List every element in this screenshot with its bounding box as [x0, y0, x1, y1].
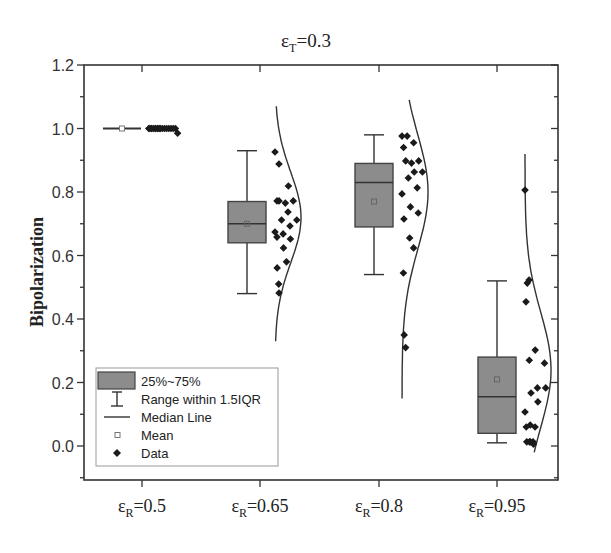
data-point	[403, 132, 411, 140]
data-point	[284, 208, 292, 216]
data-point	[400, 269, 408, 277]
y-tick-label: 1.0	[52, 121, 74, 138]
y-axis-title: Bipolarization	[27, 217, 47, 327]
data-point	[531, 346, 539, 354]
data-point	[414, 209, 422, 217]
data-point	[271, 148, 279, 156]
y-tick-label: 1.2	[52, 57, 74, 74]
data-point	[407, 203, 415, 211]
data-point	[400, 144, 408, 152]
data-point	[534, 398, 542, 406]
data-point	[400, 215, 408, 223]
data-point	[405, 174, 413, 182]
data-point	[278, 216, 286, 224]
iqr-box	[228, 202, 266, 243]
data-point	[410, 168, 418, 176]
y-tick-label: 0.6	[52, 248, 74, 265]
legend-label: Data	[141, 446, 169, 461]
data-point	[525, 356, 533, 364]
data-point	[279, 230, 287, 238]
data-point	[541, 359, 549, 367]
box-plot-chart: εT=0.3 0.00.20.40.60.81.01.2εR=0.5εR=0.6…	[0, 0, 611, 553]
box-swatch-icon	[98, 372, 135, 389]
data-point	[398, 190, 406, 198]
y-tick-label: 0.4	[52, 311, 74, 328]
data-point	[285, 182, 293, 190]
x-tick-label: εR=0.8	[355, 496, 403, 520]
data-point	[282, 199, 290, 207]
legend: 25%~75%Range within 1.5IQRMedian LineMea…	[96, 368, 278, 466]
series-group	[103, 125, 181, 137]
data-point	[289, 197, 297, 205]
data-point	[413, 184, 421, 192]
data-point	[522, 298, 530, 306]
legend-label: 25%~75%	[141, 374, 201, 389]
mean-marker	[120, 126, 125, 131]
data-point	[410, 139, 418, 147]
data-point	[415, 157, 423, 165]
distribution-curve	[276, 106, 301, 341]
legend-label: Mean	[141, 428, 174, 443]
iqr-box	[478, 357, 516, 433]
data-point	[410, 244, 418, 252]
x-tick-label: εR=0.5	[118, 496, 166, 520]
y-tick-label: 0.0	[52, 438, 74, 455]
data-point	[527, 389, 535, 397]
x-tick-label: εR=0.65	[231, 496, 288, 520]
data-point	[521, 186, 529, 194]
data-point	[273, 264, 281, 272]
legend-label: Range within 1.5IQR	[141, 392, 261, 407]
data-point	[280, 244, 288, 252]
data-point	[286, 222, 294, 230]
title-text: εT=0.3	[281, 30, 331, 55]
y-tick-label: 0.8	[52, 184, 74, 201]
data-point	[293, 216, 301, 224]
legend-label: Median Line	[141, 410, 212, 425]
data-point	[287, 235, 295, 243]
chart-title: εT=0.3	[281, 30, 331, 55]
series-group	[355, 100, 428, 399]
iqr-box	[355, 163, 393, 227]
data-point	[275, 160, 283, 168]
data-point	[534, 384, 542, 392]
data-point	[406, 234, 414, 242]
series-group	[228, 106, 301, 341]
data-point	[400, 331, 408, 339]
data-point	[275, 280, 283, 288]
y-axis-label: Bipolarization	[27, 217, 47, 327]
data-point	[542, 384, 550, 392]
series-group	[478, 154, 551, 453]
y-tick-label: 0.2	[52, 375, 74, 392]
data-point	[283, 258, 291, 266]
data-point	[419, 168, 427, 176]
data-point	[521, 408, 529, 416]
distribution-curve	[525, 154, 551, 453]
x-tick-label: εR=0.95	[468, 496, 525, 520]
